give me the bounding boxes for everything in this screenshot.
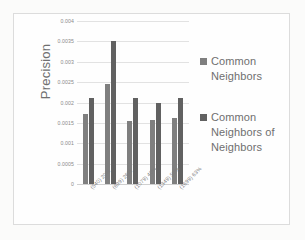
y-axis-tick-label: 0.002 — [61, 100, 74, 106]
plot-area — [77, 21, 189, 184]
legend-entry[interactable]: Common Neighbors — [200, 54, 288, 84]
bar-series-2[interactable] — [111, 41, 116, 184]
y-axis-tick-label: 0.0005 — [58, 161, 74, 167]
bar-series-2[interactable] — [133, 98, 138, 184]
bar-group — [83, 21, 94, 184]
y-axis-tick-label: 0.003 — [61, 59, 74, 65]
chart-frame: Precision 0.0040.00350.0030.00250.0020.0… — [13, 13, 290, 225]
bar-group — [105, 21, 116, 184]
legend-swatch-icon — [200, 114, 207, 121]
bar-group — [150, 21, 161, 184]
bar-group — [127, 21, 138, 184]
chart-legend: Common NeighborsCommon Neighbors of Neig… — [200, 54, 288, 181]
bar-series-2[interactable] — [156, 103, 161, 185]
bar-series-2[interactable] — [89, 98, 94, 184]
x-axis-tick-labels: (540) 20%(699) 26%(1079) 40%(1349) 50%(1… — [77, 186, 189, 226]
bar-series-1[interactable] — [83, 114, 88, 184]
scanned-page-background: Precision 0.0040.00350.0030.00250.0020.0… — [0, 0, 305, 240]
plot-wrapper: Precision 0.0040.00350.0030.00250.0020.0… — [14, 14, 194, 226]
y-axis-tick-label: 0.004 — [61, 18, 74, 24]
y-axis-tick-label: 0.0025 — [58, 79, 74, 85]
y-axis-tick-label: 0.001 — [61, 140, 74, 146]
y-axis-tick-labels: 0.0040.00350.0030.00250.0020.00150.0010.… — [42, 21, 74, 184]
y-axis-tick-label: 0.0015 — [58, 120, 74, 126]
legend-label: Common Neighbors of Neighbors — [211, 110, 288, 155]
legend-label: Common Neighbors — [211, 54, 288, 84]
bar-series-container — [77, 21, 189, 184]
y-axis-tick-label: 0 — [71, 181, 74, 187]
bar-group — [172, 21, 183, 184]
legend-entry[interactable]: Common Neighbors of Neighbors — [200, 110, 288, 155]
y-axis-tick-label: 0.0035 — [58, 38, 74, 44]
legend-swatch-icon — [200, 58, 207, 65]
